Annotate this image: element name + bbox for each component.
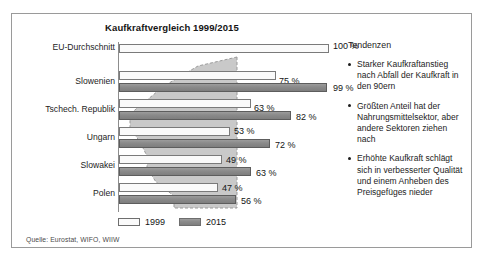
bar-1999[interactable] [119,44,329,53]
bar-2015[interactable] [119,111,291,120]
bar-group: 100 % [119,42,332,70]
legend-item-2015[interactable]: 2015 [179,217,226,227]
trend-text: Erhöhte Kaufkraft schlägt sich in verbes… [357,153,462,197]
bar-value-2015: 72 % [275,141,296,150]
bar-group: 49 % 63 % [119,154,332,182]
bar-value-1999: 47 % [222,184,243,193]
trends-heading: Tendenzen [348,40,466,50]
category-label: Slowakei [25,160,115,170]
bar-2015[interactable] [119,83,327,92]
category-label: Ungarn [25,132,115,142]
bar-2015[interactable] [119,167,251,176]
bar-2015[interactable] [119,195,236,204]
category-label: Slowenien [25,76,115,86]
bullet-icon [348,104,351,107]
bar-value-2015: 56 % [241,197,262,206]
bar-group: 47 % 56 % [119,182,332,210]
bar-row: Ungarn 53 % 72 % [119,126,332,154]
legend-swatch-1999-icon [118,218,140,226]
legend-item-1999[interactable]: 1999 [118,217,165,227]
bullet-icon [348,157,351,160]
bar-group: 75 % 99 % [119,70,332,98]
bar-value-1999: 49 % [226,156,247,165]
source-note: Quelle: Eurostat, WIFO, WIIW [26,236,119,243]
trend-list-item: Starker Kaufkraftanstieg nach Abfall der… [348,59,466,93]
category-label: Polen [25,188,115,198]
bar-group: 53 % 72 % [119,126,332,154]
bar-1999[interactable] [119,99,251,108]
bar-value-1999: 53 % [234,127,255,136]
plot-area: EU-Durchschnitt 100 % Slowenien 75 % 99 … [26,42,332,214]
trend-text: Starker Kaufkraftanstieg nach Abfall der… [357,59,459,91]
category-label: Tschech. Republik [25,104,115,114]
chart-legend: 1999 2015 [118,217,226,227]
legend-swatch-2015-icon [179,218,201,226]
bar-row: Polen 47 % 56 % [119,182,332,210]
bar-row: Tschech. Republik 63 % 82 % [119,98,332,126]
trend-text: Größten Anteil hat der Nahrungsmittelsek… [357,101,459,145]
chart-figure: Kaufkraftvergleich 1999/2015 EU-Durchsch… [11,13,472,248]
bar-1999[interactable] [119,155,222,164]
page-title: Kaufkraftvergleich 1999/2015 [12,22,332,33]
bar-row: EU-Durchschnitt 100 % [119,42,332,70]
trends-panel: Tendenzen Starker Kaufkraftanstieg nach … [348,40,466,206]
trend-list-item: Erhöhte Kaufkraft schlägt sich in verbes… [348,153,466,198]
bar-group: 63 % 82 % [119,98,332,126]
legend-label-1999: 1999 [145,217,165,227]
bar-row: Slowakei 49 % 63 % [119,154,332,182]
bar-2015[interactable] [119,139,270,148]
bar-1999[interactable] [119,71,276,80]
bar-row: Slowenien 75 % 99 % [119,70,332,98]
trend-list-item: Größten Anteil hat der Nahrungsmittelsek… [348,101,466,146]
legend-label-2015: 2015 [206,217,226,227]
bar-value-2015: 63 % [256,169,277,178]
bar-1999[interactable] [119,183,218,192]
bar-value-2015: 82 % [296,113,317,122]
bullet-icon [348,63,351,66]
category-label: EU-Durchschnitt [25,42,115,52]
bar-1999[interactable] [119,127,230,136]
